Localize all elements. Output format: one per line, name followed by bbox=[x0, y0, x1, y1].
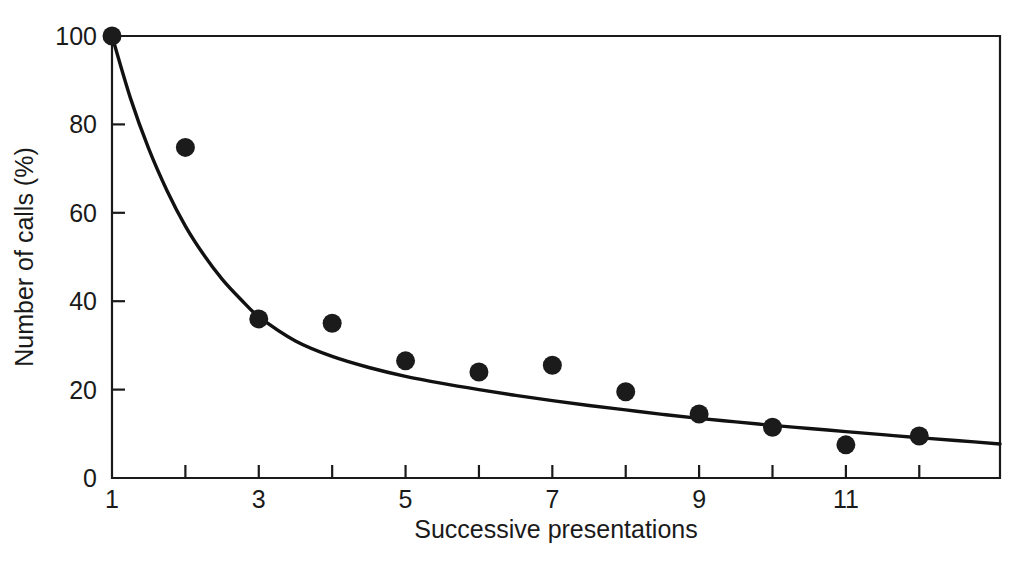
data-point-10 bbox=[763, 418, 782, 437]
data-point-4 bbox=[323, 314, 342, 333]
figure-background bbox=[0, 0, 1034, 567]
y-axis-title: Number of calls (%) bbox=[10, 147, 38, 367]
y-tick-label-40: 40 bbox=[69, 287, 97, 315]
data-point-1 bbox=[103, 27, 122, 46]
x-axis-title: Successive presentations bbox=[414, 515, 697, 543]
data-point-9 bbox=[690, 404, 709, 423]
figure-panel: 020406080100 1357911 Successive presenta… bbox=[0, 0, 1034, 567]
y-tick-label-80: 80 bbox=[69, 110, 97, 138]
x-tick-label-11: 11 bbox=[833, 485, 859, 513]
x-tick-label-7: 7 bbox=[545, 485, 559, 513]
data-point-3 bbox=[249, 309, 268, 328]
y-tick-label-60: 60 bbox=[69, 199, 97, 227]
x-tick-label-3: 3 bbox=[252, 485, 266, 513]
data-point-6 bbox=[469, 362, 488, 381]
data-point-8 bbox=[616, 382, 635, 401]
y-tick-label-0: 0 bbox=[83, 464, 97, 492]
data-point-12 bbox=[910, 427, 929, 446]
y-tick-label-20: 20 bbox=[69, 376, 97, 404]
x-tick-label-1: 1 bbox=[105, 485, 119, 513]
data-point-2 bbox=[176, 138, 195, 157]
data-point-11 bbox=[836, 435, 855, 454]
data-point-7 bbox=[543, 356, 562, 375]
chart-canvas: 020406080100 1357911 Successive presenta… bbox=[0, 0, 1034, 567]
x-tick-label-5: 5 bbox=[399, 485, 413, 513]
x-tick-label-9: 9 bbox=[692, 485, 706, 513]
data-point-5 bbox=[396, 351, 415, 370]
y-tick-label-100: 100 bbox=[55, 22, 97, 50]
